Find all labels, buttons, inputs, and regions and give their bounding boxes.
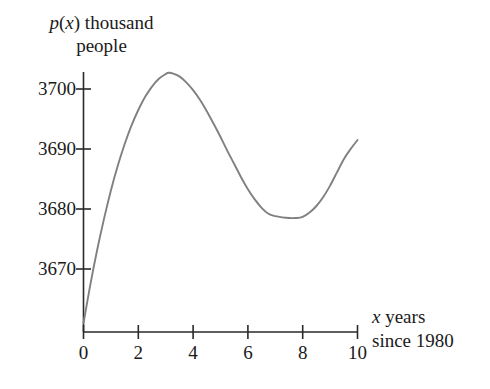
x-tick-label-10: 10 (341, 342, 375, 364)
x-tick-label-0: 0 (67, 342, 101, 364)
y-tick-label-3670: 3670 (14, 258, 76, 280)
y-axis-title-line2: people (14, 34, 189, 57)
chart-figure: p(x) thousand people x years since 1980 … (0, 0, 490, 389)
x-tick-label-8: 8 (286, 342, 320, 364)
data-curve-p-of-x (84, 73, 358, 323)
y-axis-title-text: thousand (85, 12, 154, 33)
y-tick-label-3690: 3690 (14, 138, 76, 160)
x-axis-title-text: years (385, 306, 425, 327)
x-tick-label-4: 4 (176, 342, 210, 364)
x-axis-title-line2: since 1980 (372, 329, 454, 353)
y-tick-label-3700: 3700 (14, 78, 76, 100)
y-axis-title: p(x) thousand people (14, 11, 189, 57)
x-tick-label-2: 2 (121, 342, 155, 364)
y-tick-label-3680: 3680 (14, 198, 76, 220)
x-tick-label-6: 6 (231, 342, 265, 364)
x-axis-title: x years since 1980 (372, 305, 454, 353)
